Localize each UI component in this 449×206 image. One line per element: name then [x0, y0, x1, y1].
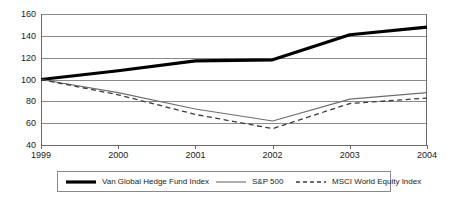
- y-axis-tick-label: 100: [12, 75, 36, 85]
- x-axis-tick-label: 1999: [21, 150, 61, 160]
- x-axis-tick-label: 2000: [98, 150, 138, 160]
- legend-item: Van Global Hedge Fund Index: [66, 172, 209, 191]
- y-axis-tick-label: 60: [12, 118, 36, 128]
- data-series: [41, 27, 427, 129]
- x-axis-tick-label: 2004: [407, 150, 447, 160]
- y-axis-tick-label: 140: [12, 31, 36, 41]
- legend-item: S&P 500: [216, 172, 283, 191]
- dashed-line-icon: [296, 177, 326, 187]
- series-line-1: [41, 80, 427, 121]
- chart-legend: Van Global Hedge Fund IndexS&P 500MSCI W…: [57, 171, 391, 192]
- x-axis-tick-label: 2001: [175, 150, 215, 160]
- thick-solid-line-icon: [66, 177, 96, 187]
- line-chart: 160140120100806040 199920002001200220032…: [0, 0, 449, 206]
- legend-label: Van Global Hedge Fund Index: [102, 177, 209, 186]
- series-line-0: [41, 27, 427, 79]
- y-axis-tick-label: 80: [12, 96, 36, 106]
- x-axis-tick-label: 2003: [330, 150, 370, 160]
- x-axis-tick-label: 2002: [253, 150, 293, 160]
- legend-label: S&P 500: [252, 177, 283, 186]
- thin-solid-line-icon: [216, 177, 246, 187]
- y-axis-tick-label: 160: [12, 9, 36, 19]
- series-line-2: [41, 80, 427, 129]
- legend-label: MSCI World Equity Index: [332, 177, 421, 186]
- y-axis-tick-label: 40: [12, 140, 36, 150]
- legend-item: MSCI World Equity Index: [296, 172, 421, 191]
- y-axis-tick-label: 120: [12, 53, 36, 63]
